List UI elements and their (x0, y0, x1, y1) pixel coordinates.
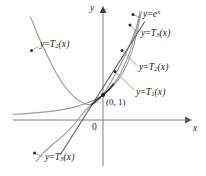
annotation-t1-suffix: (x) (155, 87, 166, 97)
origin-label: 0 (92, 123, 97, 133)
taylor-polynomial-figure: y x 0 (0, 1) y=ex y=T3(x) y=T2(x) y=T1(x… (0, 0, 206, 176)
annotation-t2l-suffix: (x) (59, 39, 70, 49)
annotation-t3l-suffix: (x) (64, 152, 75, 162)
figure-canvas (0, 0, 206, 176)
annotation-taylor-3-lower: y=T3(x) (45, 153, 74, 163)
leader-dot-taylor-2-right (121, 49, 124, 52)
x-axis-label: x (193, 124, 197, 134)
y-axis-label: y (90, 4, 94, 14)
point-label-0-1: (0, 1) (106, 98, 126, 107)
annotation-t2r-suffix: (x) (158, 62, 169, 72)
leader-dot-taylor-1 (114, 70, 117, 73)
leader-dot-exponential (132, 13, 135, 16)
leader-dot-taylor-3-upper (129, 24, 132, 27)
annotation-exponential: y=ex (143, 9, 160, 20)
annotation-taylor-1: y=T1(x) (136, 88, 165, 98)
annotation-exponential-exponent: x (157, 8, 160, 15)
annotation-taylor-2-right: y=T2(x) (139, 63, 168, 73)
point-0-1-marker (101, 93, 105, 97)
leader-dot-taylor-2-left (30, 49, 33, 52)
annotation-taylor-2-left: y=T2(x) (40, 40, 69, 50)
annotation-t3u-suffix: (x) (160, 28, 171, 38)
leader-dot-taylor-3-lower (33, 152, 36, 155)
annotation-taylor-3-upper: y=T3(x) (141, 29, 170, 39)
